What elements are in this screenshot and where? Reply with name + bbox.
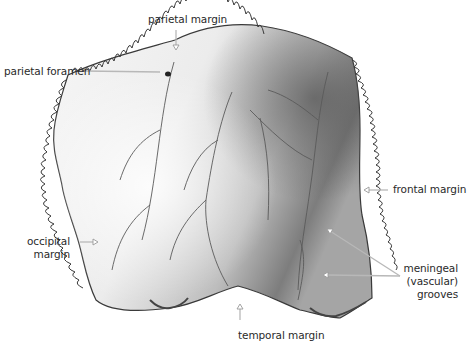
label-temporal-margin: temporal margin (238, 329, 324, 342)
label-occipital-line1: occipital (18, 235, 70, 248)
label-meningeal-line2: (vascular) (400, 275, 458, 288)
label-occipital-line2: margin (18, 248, 70, 261)
label-meningeal-grooves: meningeal (vascular) grooves (400, 262, 458, 301)
label-frontal-margin: frontal margin (393, 183, 466, 196)
label-parietal-foramen: parietal foramen (4, 65, 90, 78)
label-parietal-margin: parietal margin (148, 13, 227, 26)
label-occipital-margin: occipital margin (18, 235, 70, 261)
label-meningeal-line3: grooves (400, 288, 458, 301)
parietal-foramen-hole (165, 72, 171, 77)
label-meningeal-line1: meningeal (400, 262, 458, 275)
parietal-bone-illustration (0, 0, 468, 346)
anatomy-figure: parietal margin parietal foramen frontal… (0, 0, 468, 346)
